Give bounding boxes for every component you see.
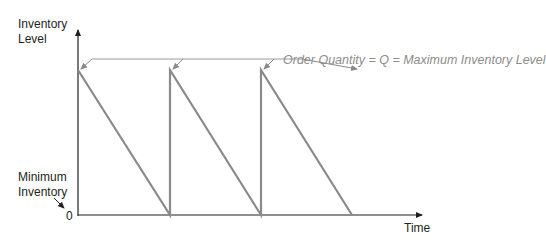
annotation-arrow-2 [173,59,183,69]
min-inventory-line1: Minimum [18,170,67,185]
annotation-arrow-1 [81,59,92,69]
min-inventory-label: Minimum Inventory [18,170,67,200]
zero-label: 0 [66,209,73,224]
y-axis-label-line1: Inventory [18,17,67,32]
x-axis-label: Time [404,221,430,236]
annotation-arrow-3 [264,59,274,69]
inventory-sawtooth [78,70,352,215]
order-quantity-annotation: Order Quantity = Q = Maximum Inventory L… [283,53,546,67]
min-inventory-line2: Inventory [18,185,67,200]
y-axis-label: Inventory Level [18,17,67,47]
y-axis-label-line2: Level [18,32,67,47]
